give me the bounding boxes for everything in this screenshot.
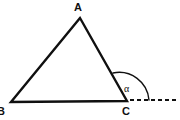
vertex-label-c: C	[122, 106, 130, 117]
triangle-abc-shape	[11, 18, 127, 102]
geometry-canvas	[0, 0, 180, 120]
geometry-figure: A B C α	[0, 0, 180, 120]
angle-label-alpha: α	[124, 84, 129, 94]
vertex-label-b: B	[0, 106, 5, 117]
vertex-label-a: A	[74, 2, 82, 13]
